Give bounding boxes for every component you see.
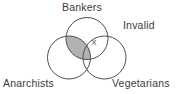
set-label-vegetarians: Vegetarians [112,78,170,89]
set-label-bankers: Bankers [62,2,102,13]
x-mark: X [90,39,98,47]
verdict-label: Invalid [123,20,155,31]
set-label-anarchists: Anarchists [3,78,54,89]
venn-diagram: Bankers Invalid Anarchists Vegetarians X [0,0,179,94]
